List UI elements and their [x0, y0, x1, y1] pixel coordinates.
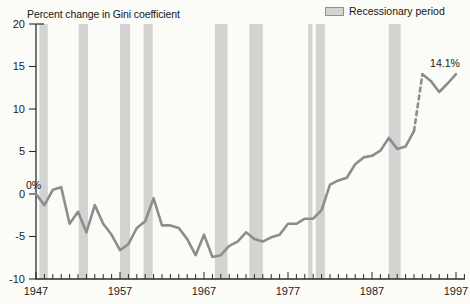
- y-axis-label: 5: [19, 145, 25, 157]
- x-axis-label: 1947: [24, 285, 48, 297]
- x-axis-label: 1997: [444, 285, 468, 297]
- value-annotation: 14.1%: [430, 57, 460, 69]
- y-axis-label: -10: [9, 273, 25, 285]
- recession-bar: [120, 24, 130, 279]
- recession-bar: [215, 24, 228, 279]
- value-annotation: 0%: [26, 179, 41, 191]
- recession-bar: [316, 24, 325, 279]
- recession-bar: [79, 24, 88, 279]
- x-axis-label: 1987: [360, 285, 384, 297]
- gini-line-solid-late: [422, 74, 456, 92]
- gini-line-chart: 20151050-5-101947195719671977198719970%1…: [0, 0, 470, 304]
- x-axis-label: 1977: [276, 285, 300, 297]
- recession-bar: [308, 24, 312, 279]
- y-axis-label: 20: [13, 18, 25, 30]
- y-axis-label: -5: [15, 230, 25, 242]
- y-axis-label: 0: [19, 188, 25, 200]
- x-axis-label: 1957: [108, 285, 132, 297]
- gini-chart-figure: Percent change in Gini coefficient Reces…: [0, 0, 470, 304]
- y-axis-label: 10: [13, 103, 25, 115]
- recession-bar: [144, 24, 153, 279]
- y-axis-label: 15: [13, 60, 25, 72]
- x-axis-label: 1967: [192, 285, 216, 297]
- recession-bar: [39, 24, 47, 279]
- recession-bar: [389, 24, 401, 279]
- gini-line-dashed-break: [414, 74, 422, 131]
